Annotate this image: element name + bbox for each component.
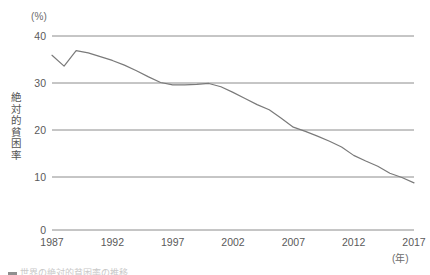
x-tick-label-1992: 1992 — [92, 236, 132, 248]
caption-text: 世界の絶対的貧困率の推移 — [20, 268, 128, 275]
y-tick-label-30: 30 — [20, 77, 46, 89]
figure-caption: 世界の絶対的貧困率の推移 — [8, 268, 268, 275]
data-series-group — [52, 51, 414, 183]
x-tick-label-1987: 1987 — [32, 236, 72, 248]
y-tick-label-0: 0 — [20, 224, 46, 236]
x-axis-unit-label: (年) — [392, 250, 409, 265]
x-tick-label-2012: 2012 — [334, 236, 374, 248]
y-tick-label-20: 20 — [20, 124, 46, 136]
gridlines-group — [52, 36, 414, 230]
data-line-0 — [52, 51, 414, 183]
x-tick-label-2007: 2007 — [273, 236, 313, 248]
x-tick-label-2017: 2017 — [394, 236, 430, 248]
x-tick-label-2002: 2002 — [213, 236, 253, 248]
y-tick-label-10: 10 — [20, 171, 46, 183]
x-tick-label-1997: 1997 — [153, 236, 193, 248]
y-tick-label-40: 40 — [20, 30, 46, 42]
